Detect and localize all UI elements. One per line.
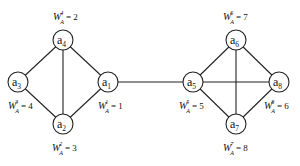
- weight-label-a1: W1A= 1: [98, 99, 123, 114]
- weight-label-a2: W2A= 3: [52, 141, 77, 156]
- weight-label-a4: W4A= 2: [53, 10, 78, 25]
- node-a3: a3: [8, 72, 28, 92]
- node-a2: a2: [53, 114, 73, 134]
- node-a4: a4: [53, 30, 73, 50]
- weight-label-a8: W8A= 6: [264, 99, 289, 114]
- node-a1: a1: [98, 72, 118, 92]
- weight-labels: W1A= 1W2A= 3W3A= 4W4A= 2W5A= 5W6A= 7W7A=…: [8, 10, 289, 156]
- node-a8: a8: [269, 72, 289, 92]
- weight-label-a5: W5A= 5: [179, 99, 204, 114]
- edges: [18, 40, 279, 124]
- weight-label-a3: W3A= 4: [8, 99, 33, 114]
- weight-label-a7: W7A= 8: [223, 141, 248, 156]
- weight-label-a6: W6A= 7: [223, 10, 248, 25]
- node-a6: a6: [226, 30, 246, 50]
- node-a7: a7: [226, 114, 246, 134]
- node-a5: a5: [183, 72, 203, 92]
- graph-diagram: a1a2a3a4a5a6a7a8 W1A= 1W2A= 3W3A= 4W4A= …: [0, 0, 300, 166]
